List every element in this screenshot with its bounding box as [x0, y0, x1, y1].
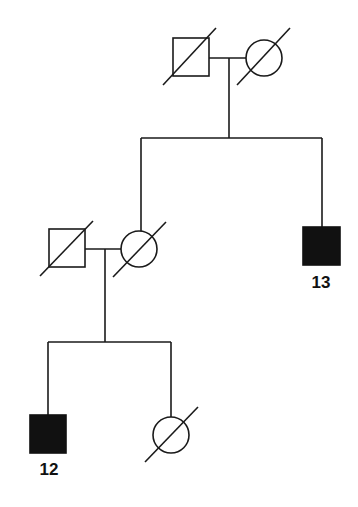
- male-deceased-I1: [173, 38, 209, 76]
- generation-2: [40, 221, 340, 342]
- male-affected-II2: [303, 227, 340, 265]
- generation-3: [30, 407, 198, 462]
- sibship-gen2: [141, 138, 322, 231]
- individual-label-12: 12: [29, 460, 69, 480]
- generation-1: [163, 28, 290, 138]
- male-affected-III1: [30, 415, 66, 453]
- sibship-gen3: [48, 342, 171, 417]
- pedigree-chart: [0, 0, 358, 507]
- individual-label-13: 13: [301, 273, 341, 293]
